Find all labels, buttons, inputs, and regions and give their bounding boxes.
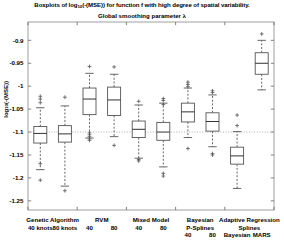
box — [108, 87, 121, 115]
group-label: Genetic Algorithm — [26, 216, 79, 223]
group-member-label: 40 — [185, 231, 192, 238]
y-tick-label: -0.9 — [13, 37, 24, 44]
y-tick-label: -1.1 — [13, 128, 24, 135]
group-member-label: 80 — [111, 224, 118, 231]
box — [181, 103, 194, 122]
group-label: Adaptive Regression — [219, 216, 280, 223]
y-tick-label: -1.05 — [9, 105, 24, 112]
group-member-label: 80 — [160, 224, 167, 231]
group-label: Bayesian — [187, 216, 214, 223]
y-tick-label: -1.15 — [9, 151, 24, 158]
box — [34, 127, 47, 144]
group-label: Mixed Model — [133, 216, 170, 223]
group-member-label: 80 knots — [53, 224, 78, 231]
y-tick-label: -0.95 — [9, 59, 24, 66]
group-member-label: 80 — [209, 231, 216, 238]
group-member-label: Bayesian — [224, 231, 251, 238]
plot-canvas: -0.9-0.95-1-1.05-1.1-1.15-1.2-1.25Geneti… — [0, 0, 284, 244]
group-member-label: MARS — [253, 231, 271, 238]
y-tick-label: -1 — [18, 82, 24, 89]
group-member-label: 40 — [86, 224, 93, 231]
group-label: Splines — [239, 224, 261, 231]
y-tick-label: -1.25 — [9, 197, 24, 204]
box — [157, 122, 170, 140]
group-label: RVM — [95, 216, 108, 223]
group-member-label: 40 knots — [28, 224, 53, 231]
boxplot-figure: Boxplots of log10(-(MSE)) for function f… — [0, 0, 284, 244]
box — [83, 88, 96, 115]
y-tick-label: -1.2 — [13, 174, 24, 181]
group-label: P-Splines — [186, 224, 214, 231]
group-member-label: 40 — [135, 224, 142, 231]
